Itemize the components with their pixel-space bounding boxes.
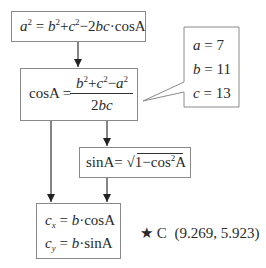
- result-point: ★ C (9.269, 5.923): [140, 226, 260, 241]
- sinA-formula: sinA= √1−cos2A: [86, 155, 186, 170]
- value-c: c = 13: [193, 86, 231, 101]
- star-icon: ★: [140, 225, 153, 241]
- value-a: a = 7: [193, 38, 224, 53]
- law-of-cosines-formula: a2 = b2+c2−2bc·cosA: [20, 19, 146, 34]
- cosA-lhs: cosA =: [29, 86, 71, 101]
- sqrt-icon: √: [127, 154, 135, 170]
- cy-formula: cy = b·sinA: [45, 236, 112, 251]
- sqrt-overline: [137, 153, 183, 154]
- value-b: b = 11: [193, 62, 231, 77]
- fraction-bar: [70, 93, 133, 94]
- cx-formula: cx = b·cosA: [45, 213, 115, 228]
- cosA-denominator: 2bc: [91, 98, 113, 113]
- cosA-numerator: b2+c2−a2: [76, 76, 128, 91]
